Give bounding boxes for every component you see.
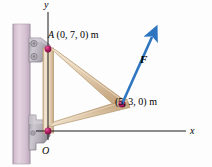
pin-A <box>45 46 52 53</box>
statics-figure: y x O A (0, 7, 0) m (5, 3, 0) m F <box>0 0 212 167</box>
pin-O <box>45 128 52 135</box>
force-label: F <box>140 54 147 65</box>
figure-canvas <box>0 0 212 167</box>
truss-members <box>43 46 130 134</box>
wall <box>13 24 30 164</box>
force-vector <box>122 37 152 104</box>
x-axis-label: x <box>190 126 194 136</box>
point-b-coords-label: (5, 3, 0) m <box>115 97 157 107</box>
y-axis-label: y <box>44 0 48 10</box>
origin-label: O <box>42 146 49 156</box>
point-a-label: A (0, 7, 0) m <box>48 30 99 40</box>
point-a-name: A <box>48 29 54 40</box>
point-a-coords: (0, 7, 0) m <box>57 29 99 40</box>
force-arrow <box>122 37 152 104</box>
